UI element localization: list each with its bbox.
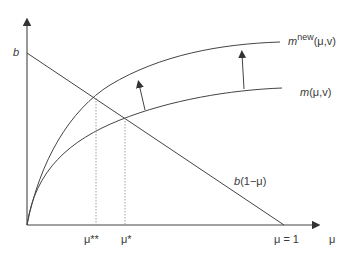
m-new-label: mnew(μ,v) [288,32,336,47]
x-axis-label: μ [329,233,335,245]
budget-line-label: b(1−μ) [234,175,266,187]
m-curve [27,88,282,225]
m-new-curve [27,42,280,225]
shift-arrow-left [139,84,145,110]
shift-arrow-right [242,54,244,89]
tick-mu-one: μ = 1 [274,233,299,245]
m-label: m(μ,v) [300,86,331,98]
budget-line [27,53,284,225]
diagram: b mnew(μ,v) m(μ,v) b(1−μ) μ** μ* μ = 1 μ [0,0,355,258]
tick-mu-star: μ* [121,233,132,245]
tick-mu-star-star: μ** [84,233,100,245]
b-axis-label: b [13,46,19,58]
